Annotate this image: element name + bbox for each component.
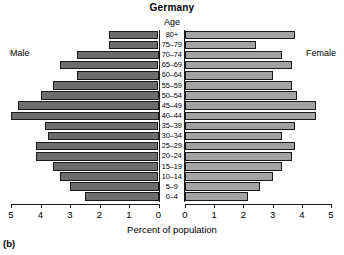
pyramid-row: 55–59	[0, 81, 344, 91]
age-group-label: 20–24	[159, 151, 186, 161]
x-tick-label-right: 0	[178, 209, 192, 220]
male-bar	[77, 71, 158, 80]
age-group-label: 70–74	[159, 50, 186, 60]
x-axis-line-right	[185, 204, 331, 205]
x-tick-label-left: 5	[4, 209, 18, 220]
x-tick-label-left: 2	[93, 209, 107, 220]
pyramid-plot-area: 80+75–7970–7465–6960–6455–5950–5445–4940…	[0, 30, 344, 202]
female-bar	[185, 132, 282, 141]
panel-tag: (b)	[3, 238, 15, 249]
pyramid-row: 20–24	[0, 151, 344, 161]
x-axis-label: Percent of population	[0, 224, 344, 235]
female-bar	[185, 41, 256, 50]
male-bar	[60, 61, 158, 70]
age-group-label: 55–59	[159, 81, 186, 91]
female-bar	[185, 192, 248, 201]
male-bar	[48, 132, 159, 141]
x-tick-label-right: 2	[236, 209, 250, 220]
male-bar	[70, 182, 159, 191]
x-tick-right	[273, 204, 274, 208]
age-group-label: 65–69	[159, 60, 186, 70]
male-bar	[45, 122, 158, 131]
age-group-label: 10–14	[159, 172, 186, 182]
female-bar	[185, 152, 292, 161]
age-group-label: 30–34	[159, 131, 186, 141]
female-bar	[185, 162, 282, 171]
pyramid-row: 60–64	[0, 70, 344, 80]
pyramid-row: 75–79	[0, 40, 344, 50]
male-bar	[41, 91, 159, 100]
age-group-label: 60–64	[159, 70, 186, 80]
male-bar	[53, 81, 159, 90]
pyramid-row: 80+	[0, 30, 344, 40]
x-tick-left	[159, 204, 160, 208]
male-bar	[36, 152, 159, 161]
x-tick-right	[243, 204, 244, 208]
pyramid-row: 25–29	[0, 141, 344, 151]
x-tick-label-right: 3	[266, 209, 280, 220]
x-tick-label-right: 4	[295, 209, 309, 220]
male-bar	[53, 162, 159, 171]
pyramid-row: 45–49	[0, 101, 344, 111]
age-group-label: 75–79	[159, 40, 186, 50]
age-axis-header: Age	[0, 17, 344, 27]
female-bar	[185, 122, 295, 131]
x-tick-left	[11, 204, 12, 208]
x-tick-label-left: 4	[34, 209, 48, 220]
x-tick-label-right: 5	[324, 209, 338, 220]
age-group-label: 80+	[159, 30, 186, 40]
age-group-label: 0–4	[159, 192, 186, 202]
x-tick-right	[302, 204, 303, 208]
x-tick-left	[100, 204, 101, 208]
age-group-label: 35–39	[159, 121, 186, 131]
female-bar	[185, 172, 273, 181]
male-bar	[36, 142, 159, 151]
male-bar	[109, 31, 158, 40]
female-bar	[185, 71, 273, 80]
x-tick-right	[185, 204, 186, 208]
female-bar	[185, 51, 282, 60]
x-tick-label-left: 3	[63, 209, 77, 220]
x-tick-left	[41, 204, 42, 208]
x-tick-label-right: 1	[207, 209, 221, 220]
female-bar	[185, 31, 295, 40]
x-tick-left	[129, 204, 130, 208]
x-axis-line-left	[11, 204, 159, 205]
pyramid-row: 15–19	[0, 162, 344, 172]
female-bar	[185, 182, 260, 191]
pyramid-row: 40–44	[0, 111, 344, 121]
male-bar	[85, 192, 159, 201]
female-bar	[185, 142, 295, 151]
x-tick-right	[214, 204, 215, 208]
age-group-label: 45–49	[159, 101, 186, 111]
x-axis: 543210012345	[0, 204, 344, 205]
pyramid-row: 5–9	[0, 182, 344, 192]
female-bar	[185, 112, 316, 121]
pyramid-row: 0–4	[0, 192, 344, 202]
age-group-label: 50–54	[159, 91, 186, 101]
pyramid-row: 50–54	[0, 91, 344, 101]
pyramid-row: 30–34	[0, 131, 344, 141]
male-bar	[18, 101, 158, 110]
age-group-label: 40–44	[159, 111, 186, 121]
pyramid-row: 65–69	[0, 60, 344, 70]
pyramid-row: 35–39	[0, 121, 344, 131]
population-pyramid-figure: Germany Age Male Female 80+75–7970–7465–…	[0, 0, 344, 255]
female-bar	[185, 101, 316, 110]
x-tick-right	[331, 204, 332, 208]
female-bar	[185, 61, 292, 70]
male-bar	[109, 41, 158, 50]
x-tick-label-left: 1	[122, 209, 136, 220]
pyramid-row: 10–14	[0, 172, 344, 182]
female-bar	[185, 81, 292, 90]
male-bar	[11, 112, 159, 121]
pyramid-row: 70–74	[0, 50, 344, 60]
age-group-label: 15–19	[159, 162, 186, 172]
male-bar	[60, 172, 158, 181]
age-group-label: 25–29	[159, 141, 186, 151]
age-group-label: 5–9	[159, 182, 186, 192]
chart-title: Germany	[0, 2, 344, 13]
female-bar	[185, 91, 297, 100]
x-tick-label-left: 0	[152, 209, 166, 220]
x-tick-left	[70, 204, 71, 208]
